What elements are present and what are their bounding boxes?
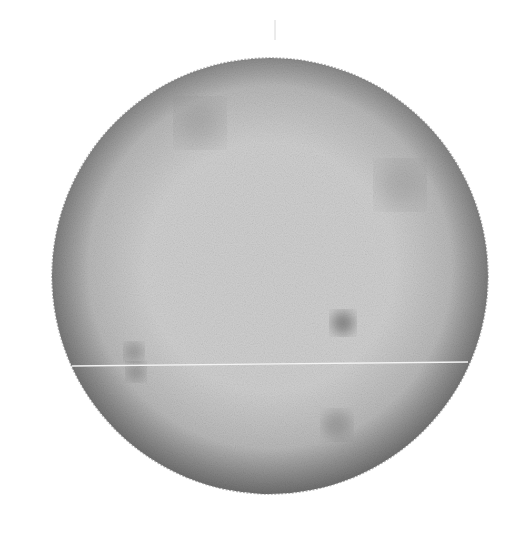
image-canvas [0, 0, 520, 538]
sunspot [378, 163, 422, 207]
sunspot [323, 411, 351, 439]
sunspot [332, 312, 354, 334]
sunspot [178, 101, 222, 145]
sunspot [125, 343, 143, 361]
solar-disk-graphic [0, 0, 520, 538]
solar-disk [0, 0, 520, 538]
disk-body [52, 58, 488, 494]
